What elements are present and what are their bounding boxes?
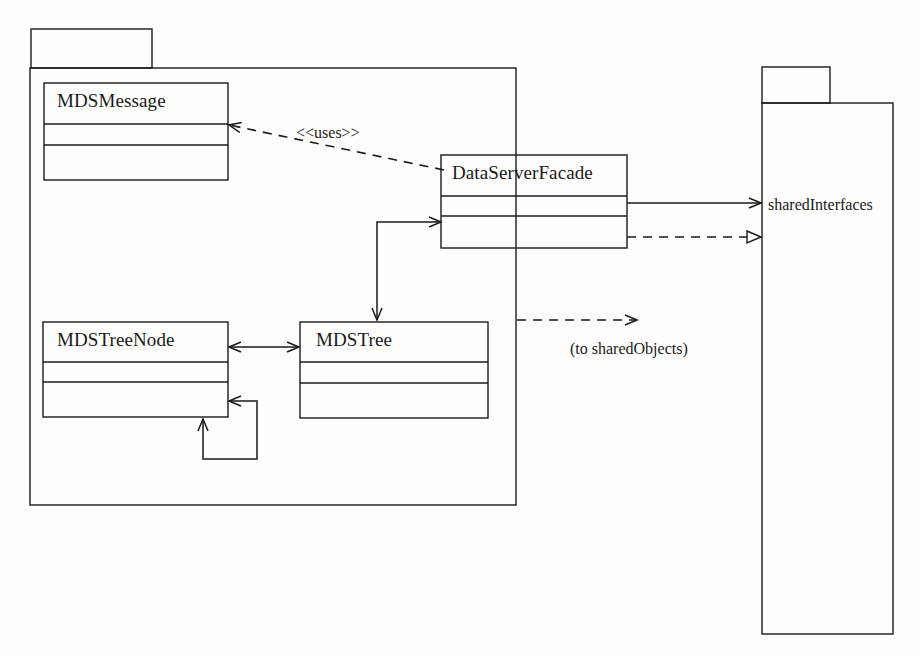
class-name-mds-tree: MDSTree xyxy=(316,329,392,351)
class-name-mds-message: MDSMessage xyxy=(57,90,166,112)
package-shared-interfaces-body xyxy=(762,103,893,634)
package-shared-interfaces[interactable] xyxy=(762,67,893,634)
class-name-data-server-facade: DataServerFacade xyxy=(452,162,593,184)
connector-facade-to-mds-tree[interactable] xyxy=(377,222,441,320)
connector-label-to-shared-objects: (to sharedObjects) xyxy=(570,340,688,358)
package-left-tab xyxy=(31,29,152,68)
package-name-shared-interfaces: sharedInterfaces xyxy=(768,196,873,214)
package-left-body xyxy=(30,68,516,505)
connector-label-uses: <<uses>> xyxy=(296,124,360,142)
package-shared-interfaces-tab xyxy=(762,67,830,103)
uml-diagram-canvas: MDSMessage DataServerFacade MDSTreeNode … xyxy=(0,0,920,656)
class-name-mds-tree-node: MDSTreeNode xyxy=(57,329,175,351)
connector-tree-node-self-loop[interactable] xyxy=(203,401,257,459)
